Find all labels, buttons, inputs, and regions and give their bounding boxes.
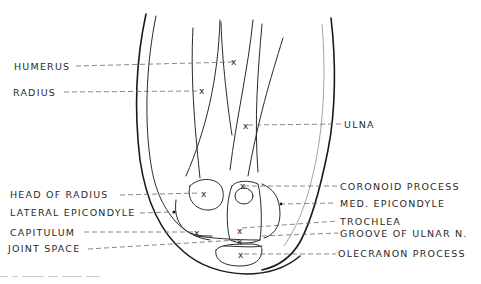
elbow-anatomy-diagram: x x x x x x x x x HUMERUS RADIUS HEAD OF… [0,0,481,284]
label-lateral-epicondyle: LATERAL EPICONDYLE [10,207,135,218]
marker-radius: x [199,86,205,96]
joint-space-lower [224,246,262,247]
leader-head-of-radius [120,193,200,195]
marker-humerus: x [231,57,237,67]
soft-tissue-right [284,24,324,246]
label-radius: RADIUS [13,87,56,98]
label-trochlea: TROCHLEA [339,216,401,227]
label-med-epicondyle: MED. EPICONDYLE [340,198,445,209]
label-groove-of-ulnar-n: GROOVE OF ULNAR N. [340,228,467,239]
leader-joint-space [88,240,238,249]
leader-humerus [76,62,234,66]
label-head-of-radius: HEAD OF RADIUS [10,189,109,200]
radius-shaft-right-edge [186,20,220,176]
marker-head-of-radius: x [201,189,207,199]
label-humerus: HUMERUS [14,61,70,72]
leader-groove-of-ulnar-n [262,233,338,236]
humerus-line-2 [230,20,253,170]
label-joint-space: JOINT SPACE [7,243,80,254]
cropped-caption-fragment [0,276,160,284]
marker-capitulum: x [194,228,200,238]
medial-epicondyle-shape [262,184,280,238]
leader-radius [64,91,200,92]
leader-lateral-epicondyle [140,212,172,213]
label-ulna: ULNA [344,119,375,130]
marker-lateral-epicondyle-dot [172,210,175,213]
marker-groove: x [237,237,243,247]
label-capitulum: CAPITULUM [10,227,75,238]
marker-coronoid-process: x [240,181,246,191]
radius-shaft-left-edge [192,28,200,178]
humerus-line-1 [221,22,232,135]
label-olecranon-process: OLECRANON PROCESS [338,248,466,259]
marker-trochlea: x [237,226,243,236]
leader-ulna [248,124,341,125]
ulna-line [248,38,283,176]
label-coronoid-process: CORONOID PROCESS [340,181,460,192]
leader-med-epicondyle [280,203,336,204]
marker-med-epicondyle-dot [280,203,283,206]
marker-olecranon: x [238,250,244,260]
marker-ulna: x [243,121,249,131]
diagram-canvas: x x x x x x x x x HUMERUS RADIUS HEAD OF… [0,0,481,284]
humerus-line-3 [256,24,262,172]
skin-outline-left [137,14,300,274]
leader-trochlea [242,221,338,228]
soft-tissue-left [147,16,210,240]
